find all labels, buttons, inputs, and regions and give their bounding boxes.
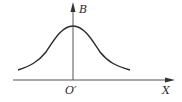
bell-curve-diagram: B O′ X bbox=[0, 0, 182, 102]
x-axis-arrowhead-icon bbox=[165, 78, 175, 83]
y-axis-arrowhead-icon bbox=[71, 2, 76, 12]
bell-curve bbox=[18, 26, 130, 70]
diagram-canvas bbox=[0, 0, 182, 102]
x-axis-label: X bbox=[162, 85, 170, 96]
y-axis-label: B bbox=[79, 4, 87, 15]
origin-label: O′ bbox=[65, 85, 77, 96]
